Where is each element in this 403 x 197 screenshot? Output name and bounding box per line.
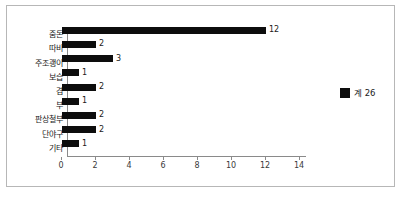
x-axis-tick-label: 14: [289, 161, 309, 171]
x-axis-tick: [61, 157, 62, 160]
bar: [62, 98, 79, 105]
x-axis-tick: [265, 157, 266, 160]
bar: [62, 84, 96, 91]
bar-value-label: 12: [269, 25, 279, 35]
bar: [62, 41, 96, 48]
bar: [62, 69, 79, 76]
x-axis-tick: [95, 157, 96, 160]
bar-value-label: 2: [99, 110, 104, 120]
category-label: 기타: [49, 144, 63, 154]
bar: [62, 126, 96, 133]
category-label: 판상철부: [35, 115, 63, 125]
legend-swatch-icon: [340, 88, 350, 98]
x-axis-tick-label: 10: [221, 161, 241, 171]
bar: [62, 27, 266, 34]
category-label: 줌돈: [49, 30, 63, 40]
bar: [62, 140, 79, 147]
chart-frame: 줌돈따비주조괭이보습겸부판상철부단야구기타 024681012141223121…: [6, 5, 395, 187]
bar-value-label: 3: [116, 54, 121, 64]
bar-value-label: 1: [82, 68, 87, 78]
chart-screenshot: 줌돈따비주조괭이보습겸부판상철부단야구기타 024681012141223121…: [0, 0, 403, 197]
x-axis-tick-label: 4: [119, 161, 139, 171]
x-axis-tick: [129, 157, 130, 160]
category-label: 단야구: [42, 130, 63, 140]
x-axis-tick-label: 2: [85, 161, 105, 171]
category-label: 따비: [49, 44, 63, 54]
bar-value-label: 1: [82, 96, 87, 106]
x-axis-tick: [197, 157, 198, 160]
bar-value-label: 2: [99, 125, 104, 135]
x-axis-tick-label: 6: [153, 161, 173, 171]
bar: [62, 55, 113, 62]
x-axis-tick: [231, 157, 232, 160]
bar: [62, 112, 96, 119]
x-axis-tick: [299, 157, 300, 160]
category-axis-labels: 줌돈따비주조괭이보습겸부판상철부단야구기타: [13, 28, 63, 156]
x-axis-tick: [163, 157, 164, 160]
bar-value-label: 2: [99, 39, 104, 49]
category-label: 주조괭이: [35, 59, 63, 69]
bar-value-label: 2: [99, 82, 104, 92]
legend-label: 계 26: [354, 88, 376, 98]
chart-legend: 계 26: [340, 88, 376, 98]
bar-value-label: 1: [82, 139, 87, 149]
value-axis-line: [67, 156, 306, 157]
x-axis-tick-label: 12: [255, 161, 275, 171]
x-axis-tick-label: 8: [187, 161, 207, 171]
category-label: 보습: [49, 73, 63, 83]
x-axis-tick-label: 0: [51, 161, 71, 171]
